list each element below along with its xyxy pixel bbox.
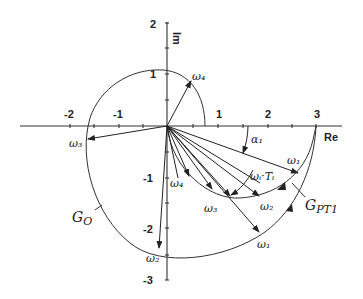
curve-arrow bbox=[277, 182, 286, 190]
label-omega3-inner: ω₃ bbox=[204, 202, 217, 215]
x-tick-label: 3 bbox=[314, 108, 320, 120]
im-axis-label: Im bbox=[171, 32, 183, 45]
y-tick-label: -3 bbox=[143, 274, 153, 286]
x-tick-label: -2 bbox=[64, 108, 74, 120]
vector-omega4-top bbox=[167, 81, 191, 126]
x-tick-label: 2 bbox=[265, 108, 271, 120]
label-omega1-ray: ω₁ bbox=[287, 154, 300, 167]
label-omega4-inner: ω₄ bbox=[170, 177, 183, 190]
label-g-o: GO bbox=[72, 209, 92, 228]
g-pt1-leader bbox=[292, 183, 305, 197]
vector-omega3-left bbox=[88, 126, 167, 139]
vector-omega4-inner bbox=[167, 126, 189, 176]
label-g-pt1: GPT1 bbox=[305, 197, 338, 216]
label-alpha1: α₁ bbox=[251, 133, 263, 146]
label-omega4-top: ω₄ bbox=[192, 70, 205, 83]
label-omega2-bottom: ω₂ bbox=[146, 252, 159, 265]
vector-omega2-bottom bbox=[159, 126, 167, 248]
alpha-arc bbox=[243, 126, 248, 153]
curve-arrow bbox=[286, 204, 293, 212]
y-tick-label: -1 bbox=[143, 172, 153, 184]
label-omega2-inner: ω₂ bbox=[260, 200, 273, 213]
label-omega3-left: ω₃ bbox=[69, 137, 82, 150]
y-tick-label: -2 bbox=[143, 223, 153, 235]
x-tick-label: 1 bbox=[216, 108, 222, 120]
nyquist-diagram: -2 -1 1 2 3 2 1 -1 -2 -3 Re Im ω₄ ω₃ ω₂ … bbox=[0, 0, 363, 299]
label-omega1-bottom: ω₁ bbox=[257, 238, 270, 251]
axes bbox=[20, 22, 342, 280]
y-tick-label: 2 bbox=[150, 18, 156, 30]
x-tick-label: -1 bbox=[113, 108, 123, 120]
re-axis-label: Re bbox=[324, 131, 338, 143]
label-omega-i-tt: ωᵢ·Tₜ bbox=[250, 170, 275, 183]
